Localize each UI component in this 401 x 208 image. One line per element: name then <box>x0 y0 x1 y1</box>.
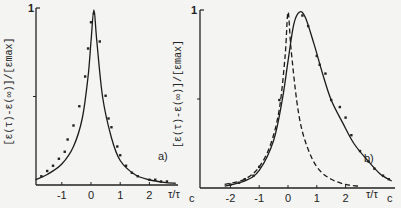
data-point <box>154 179 156 181</box>
data-point <box>93 12 95 14</box>
data-point <box>229 183 231 185</box>
data-point <box>160 180 162 182</box>
x-tick-label: 2 <box>146 189 152 201</box>
data-point <box>166 180 168 182</box>
data-point <box>125 165 127 167</box>
data-point <box>318 64 320 66</box>
data-point <box>46 170 48 172</box>
data-point <box>316 55 318 57</box>
reference-curve <box>225 12 360 186</box>
data-point <box>258 166 260 168</box>
data-point <box>87 47 89 49</box>
data-point <box>238 182 240 184</box>
x-axis-label-sub: c <box>189 192 195 204</box>
data-point <box>278 99 280 101</box>
x-tick-label: 2 <box>343 192 349 204</box>
panel-label: a) <box>158 150 168 162</box>
data-point <box>244 178 246 180</box>
data-point <box>116 145 118 147</box>
data-point <box>40 175 42 177</box>
y-tick-label: 1 <box>191 4 197 16</box>
data-point <box>119 154 121 156</box>
data-point <box>367 160 369 162</box>
data-point <box>104 95 106 97</box>
y-axis-label: [ε(τ)-ε(∞)]/[εmax] <box>173 40 184 148</box>
data-point <box>66 138 68 140</box>
data-point <box>382 174 384 176</box>
data-point <box>84 75 86 77</box>
x-tick-label: -2 <box>226 192 236 204</box>
data-point <box>350 134 352 136</box>
data-point <box>52 165 54 167</box>
x-tick-label: 1 <box>117 189 123 201</box>
data-point <box>107 117 109 119</box>
data-point <box>330 99 332 101</box>
data-point <box>78 105 80 107</box>
data-point <box>252 174 254 176</box>
fit-curve <box>225 12 392 187</box>
x-axis-label-sub: c <box>387 192 393 204</box>
x-tick-label: -1 <box>254 192 264 204</box>
data-point <box>301 14 303 16</box>
data-point <box>388 178 390 180</box>
data-point <box>373 167 375 169</box>
x-tick-label: -1 <box>57 189 67 201</box>
data-point <box>58 158 60 160</box>
chart-figure: 1-1012τ/τc[ε(τ)-ε(∞)]/[εmax]a)1-2-1012τ/… <box>0 0 401 208</box>
data-point <box>344 116 346 118</box>
y-axis-label: [ε(τ)-ε(∞)]/[εmax] <box>4 37 15 145</box>
x-tick-label: 0 <box>88 189 94 201</box>
data-point <box>90 21 92 23</box>
data-point <box>339 106 341 108</box>
data-point <box>324 72 326 74</box>
data-point <box>64 151 66 153</box>
data-point <box>99 40 101 42</box>
x-axis-label: τ/τ <box>366 188 378 200</box>
data-point <box>148 179 150 181</box>
x-tick-label: 1 <box>314 192 320 204</box>
x-tick-label: 0 <box>285 192 291 204</box>
data-point <box>359 150 361 152</box>
y-tick-label: 1 <box>28 2 34 14</box>
data-point <box>137 175 139 177</box>
data-point <box>72 124 74 126</box>
data-point <box>131 172 133 174</box>
x-axis-label: τ/τ <box>168 188 180 200</box>
data-point <box>307 25 309 27</box>
data-point <box>110 126 112 128</box>
